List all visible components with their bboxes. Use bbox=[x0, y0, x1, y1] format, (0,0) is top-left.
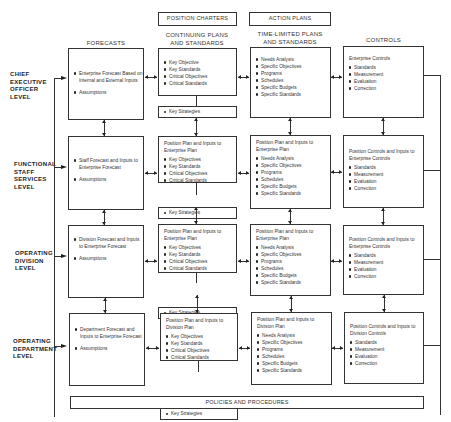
controls-box-functional-staff: Position Controls and Inputs to Enterpri… bbox=[343, 135, 424, 208]
double-arrow-icon bbox=[238, 259, 249, 264]
time-limited-item: Specific Budgets bbox=[256, 84, 330, 91]
continuing-plans-box-functional-staff: Position Plan and Inputs to Enterprise P… bbox=[158, 136, 237, 183]
level-line: OPERATING bbox=[13, 338, 57, 346]
connector-line bbox=[423, 75, 441, 76]
header-time-limited-line2: AND STANDARDS bbox=[247, 39, 333, 47]
time-limited-item: Specific Standards bbox=[257, 367, 331, 374]
controls-item: Measurement bbox=[349, 71, 423, 78]
controls-item: Evaluation bbox=[350, 353, 423, 360]
forecast-item: Assumptions bbox=[74, 255, 143, 262]
policies-procedures-box: POLICIES AND PROCEDURES bbox=[70, 396, 424, 409]
controls-item: Measurement bbox=[349, 171, 423, 178]
level-line: CHIEF bbox=[10, 71, 47, 79]
continuing-item: Critical Objectives bbox=[166, 347, 237, 354]
double-arrow-icon bbox=[331, 75, 342, 80]
double-arrow-icon bbox=[145, 259, 157, 264]
double-arrow-icon bbox=[239, 346, 250, 351]
connector-line bbox=[196, 183, 197, 195]
controls-item: Correction bbox=[349, 273, 423, 280]
bullet-icon bbox=[164, 212, 166, 214]
header-forecasts: FORECASTS bbox=[68, 40, 144, 48]
time-limited-item: Schedules bbox=[256, 77, 330, 84]
continuing-item: Critical Objectives bbox=[164, 73, 236, 80]
key-strategies-label: Key Strategies bbox=[169, 109, 200, 114]
level-line: LEVEL bbox=[14, 184, 56, 192]
double-arrow-vertical-icon bbox=[289, 296, 294, 312]
connector-line bbox=[198, 361, 199, 372]
double-arrow-icon bbox=[332, 346, 343, 351]
time-limited-item: Schedules bbox=[256, 265, 330, 272]
controls-item: Correction bbox=[350, 360, 423, 367]
continuing-item: Critical Standards bbox=[164, 80, 236, 87]
continuing-lead: Position Plan and Inputs to Enterprise P… bbox=[164, 140, 236, 154]
arrow-right-icon bbox=[61, 254, 67, 258]
connector-line bbox=[196, 96, 197, 106]
time-limited-item: Specific Objectives bbox=[257, 339, 331, 346]
time-limited-item: Specific Standards bbox=[256, 279, 330, 286]
header-continuing-line2: AND STANDARDS bbox=[155, 40, 239, 48]
bullet-icon bbox=[166, 413, 168, 415]
controls-box-operating-division: Position Controls and Inputs to Enterpri… bbox=[343, 225, 424, 295]
controls-box-operating-department: Position Controls and Inputs to Division… bbox=[344, 312, 424, 384]
time-limited-item: Specific Budgets bbox=[256, 272, 330, 279]
time-limited-lead: Position Plan and Inputs to Enterprise P… bbox=[256, 228, 330, 242]
controls-item: Correction bbox=[349, 85, 423, 92]
action-plans-box: ACTION PLANS bbox=[249, 12, 331, 26]
key-strategies-label: Key Strategies bbox=[171, 411, 202, 416]
level-line: FUNCTIONAL bbox=[14, 161, 56, 169]
time-limited-item: Specific Budgets bbox=[257, 360, 331, 367]
time-limited-item: Needs Analysis bbox=[256, 155, 330, 162]
double-arrow-icon bbox=[331, 170, 342, 175]
continuing-plans-box-ceo: Key Objective Key Standards Critical Obj… bbox=[158, 48, 237, 96]
forecast-item: Assumptions bbox=[74, 89, 143, 96]
header-continuing-line1: CONTINUING PLANS bbox=[155, 32, 239, 40]
double-arrow-vertical-icon bbox=[102, 210, 107, 225]
key-strategies-box-ceo: Key Strategies bbox=[158, 106, 237, 118]
forecast-box-operating-division: Division Forecast and Inputs to Enterpri… bbox=[68, 225, 144, 298]
time-limited-item: Needs Analysis bbox=[256, 56, 330, 63]
level-line: OFFICER bbox=[10, 86, 47, 94]
time-limited-lead: Position Plan and Inputs to Enterprise P… bbox=[256, 139, 330, 153]
continuing-item: Critical Standards bbox=[166, 354, 237, 361]
controls-box-ceo: Enterprise Controls Standards Measuremen… bbox=[343, 46, 424, 118]
double-arrow-icon bbox=[145, 171, 157, 176]
double-arrow-vertical-icon bbox=[381, 118, 386, 135]
time-limited-item: Programs bbox=[256, 258, 330, 265]
time-limited-item: Specific Standards bbox=[256, 190, 330, 197]
time-limited-plans-box-functional-staff: Position Plan and Inputs to Enterprise P… bbox=[250, 135, 331, 209]
connector-line bbox=[423, 170, 441, 171]
arrow-right-icon bbox=[61, 165, 67, 169]
double-arrow-vertical-icon bbox=[103, 298, 108, 313]
level-line: DIVISION bbox=[15, 258, 53, 266]
time-limited-plans-box-ceo: Needs Analysis Specific Objectives Progr… bbox=[250, 47, 331, 118]
forecast-item: Assumptions bbox=[75, 345, 144, 352]
controls-item: Standards bbox=[349, 252, 423, 259]
arrow-right-icon bbox=[61, 76, 67, 80]
forecast-item: Staff Forecast and Inputs to Enterprise … bbox=[74, 157, 143, 171]
double-arrow-icon bbox=[146, 346, 159, 351]
double-arrow-icon bbox=[145, 75, 157, 80]
controls-item: Evaluation bbox=[349, 266, 423, 273]
level-line: STAFF bbox=[14, 169, 56, 177]
continuing-plans-box-operating-division: Position Plan and Inputs to Enterprise P… bbox=[158, 224, 237, 273]
level-line: LEVEL bbox=[15, 265, 53, 273]
time-limited-item: Schedules bbox=[257, 353, 331, 360]
double-arrow-vertical-icon bbox=[381, 208, 386, 225]
double-arrow-vertical-icon bbox=[102, 120, 107, 136]
continuing-item: Critical Objectives bbox=[164, 258, 236, 265]
time-limited-item: Specific Standards bbox=[256, 91, 330, 98]
time-limited-item: Specific Objectives bbox=[256, 63, 330, 70]
time-limited-item: Specific Objectives bbox=[256, 251, 330, 258]
controls-item: Evaluation bbox=[349, 178, 423, 185]
continuing-item: Critical Standards bbox=[164, 265, 236, 272]
connector-line bbox=[196, 273, 197, 283]
level-label-operating-division: OPERATING DIVISION LEVEL bbox=[15, 250, 53, 273]
level-line: LEVEL bbox=[13, 353, 57, 361]
controls-item: Standards bbox=[349, 64, 423, 71]
controls-lead: Enterprise Controls bbox=[349, 55, 423, 62]
header-time-limited-plans: TIME-LIMITED PLANS AND STANDARDS bbox=[247, 31, 333, 46]
time-limited-item: Schedules bbox=[256, 176, 330, 183]
double-arrow-icon bbox=[331, 259, 342, 264]
level-line: LEVEL bbox=[10, 94, 47, 102]
level-label-functional-staff: FUNCTIONAL STAFF SERVICES LEVEL bbox=[14, 161, 56, 191]
